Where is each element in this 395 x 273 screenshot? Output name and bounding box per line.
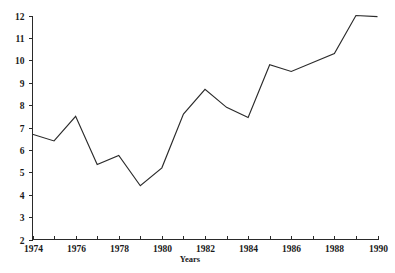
- y-tick-label: 6: [20, 146, 25, 156]
- x-axis-title: Years: [180, 254, 201, 264]
- line-chart: 23456789101112 1974197619781980198219841…: [0, 0, 395, 273]
- x-tick-group: [34, 236, 379, 240]
- y-tick-label: 8: [20, 101, 25, 111]
- x-tick-label: 1990: [369, 244, 388, 254]
- y-tick-label: 9: [20, 79, 25, 89]
- y-tick-label: 12: [15, 12, 25, 22]
- x-tick-label-group: 197419761978198019821984198619881990: [24, 244, 388, 254]
- y-tick-label: 3: [20, 213, 25, 223]
- y-tick-label-group: 23456789101112: [15, 12, 25, 246]
- y-axis: 23456789101112: [15, 12, 33, 246]
- y-tick-label: 11: [16, 34, 25, 44]
- chart-canvas: 23456789101112 1974197619781980198219841…: [0, 0, 395, 273]
- x-tick-label: 1976: [67, 244, 86, 254]
- y-tick-label: 4: [20, 191, 25, 201]
- data-series-line: [33, 16, 378, 186]
- y-tick-group: [29, 17, 33, 241]
- x-axis: 197419761978198019821984198619881990: [24, 236, 388, 254]
- x-tick-label: 1974: [24, 244, 43, 254]
- x-tick-label: 1982: [196, 244, 215, 254]
- y-tick-label: 7: [20, 124, 25, 134]
- x-tick-label: 1986: [282, 244, 301, 254]
- y-tick-label: 10: [15, 56, 25, 66]
- x-tick-label: 1988: [325, 244, 344, 254]
- x-tick-label: 1984: [239, 244, 258, 254]
- x-tick-label: 1980: [153, 244, 172, 254]
- y-tick-label: 5: [20, 168, 25, 178]
- x-tick-label: 1978: [110, 244, 129, 254]
